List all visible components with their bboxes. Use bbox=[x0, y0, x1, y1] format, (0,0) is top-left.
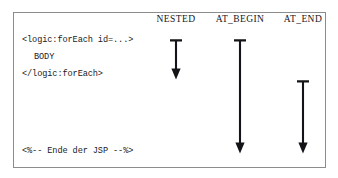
column-header-nested: NESTED bbox=[157, 14, 196, 24]
column-header-at-begin: AT_BEGIN bbox=[216, 14, 265, 24]
code-line-jsp-end-comment: <%-- Ende der JSP --%> bbox=[22, 146, 133, 156]
scope-arrow-nested-glyph bbox=[169, 38, 184, 82]
code-block: <logic:forEach id=...> BODY </logic:forE… bbox=[22, 32, 152, 83]
code-line-body: BODY bbox=[22, 49, 152, 66]
code-line-open-tag: <logic:forEach id=...> bbox=[22, 32, 152, 49]
scope-arrow-nested bbox=[169, 38, 184, 82]
scope-arrow-at-end bbox=[296, 79, 311, 156]
scope-arrow-at-begin bbox=[233, 38, 248, 156]
code-line-close-tag: </logic:forEach> bbox=[22, 66, 152, 83]
scope-arrow-at-end-glyph bbox=[296, 79, 311, 156]
diagram-root: NESTED AT_BEGIN AT_END <logic:forEach id… bbox=[0, 0, 338, 178]
column-header-at-end: AT_END bbox=[284, 14, 322, 24]
scope-arrow-at-begin-glyph bbox=[233, 38, 248, 156]
